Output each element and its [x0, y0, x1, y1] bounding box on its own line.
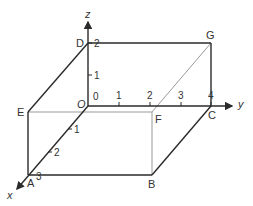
vertex-B: B	[148, 178, 155, 190]
y-tick-4: 4	[208, 90, 214, 101]
y-tick-1: 1	[116, 90, 122, 101]
y-axis-label: y	[237, 98, 245, 110]
x-tick-3: 3	[36, 171, 42, 182]
origin-tick: 0	[93, 91, 99, 102]
y-tick-3: 3	[178, 90, 184, 101]
x-tick-1: 1	[74, 124, 80, 135]
vertex-A: A	[27, 177, 35, 189]
edge-FG	[152, 43, 211, 112]
vertex-D: D	[76, 37, 84, 49]
vertex-E: E	[17, 106, 24, 118]
vertex-O: O	[77, 98, 86, 110]
z-axis-label: z	[84, 8, 91, 20]
y-tick-2: 2	[147, 90, 153, 101]
axes	[17, 22, 232, 189]
cuboid-diagram: z y x 2 1 0 1 2 3 4 1 2 3 O D G E F C A …	[0, 0, 253, 206]
z-tick-2: 2	[94, 38, 100, 49]
vertex-G: G	[206, 29, 215, 41]
vertex-C: C	[208, 109, 216, 121]
x-tick-2: 2	[54, 147, 60, 158]
vertex-F: F	[155, 113, 162, 125]
x-axis-label: x	[6, 189, 13, 201]
z-tick-1: 1	[94, 70, 100, 81]
